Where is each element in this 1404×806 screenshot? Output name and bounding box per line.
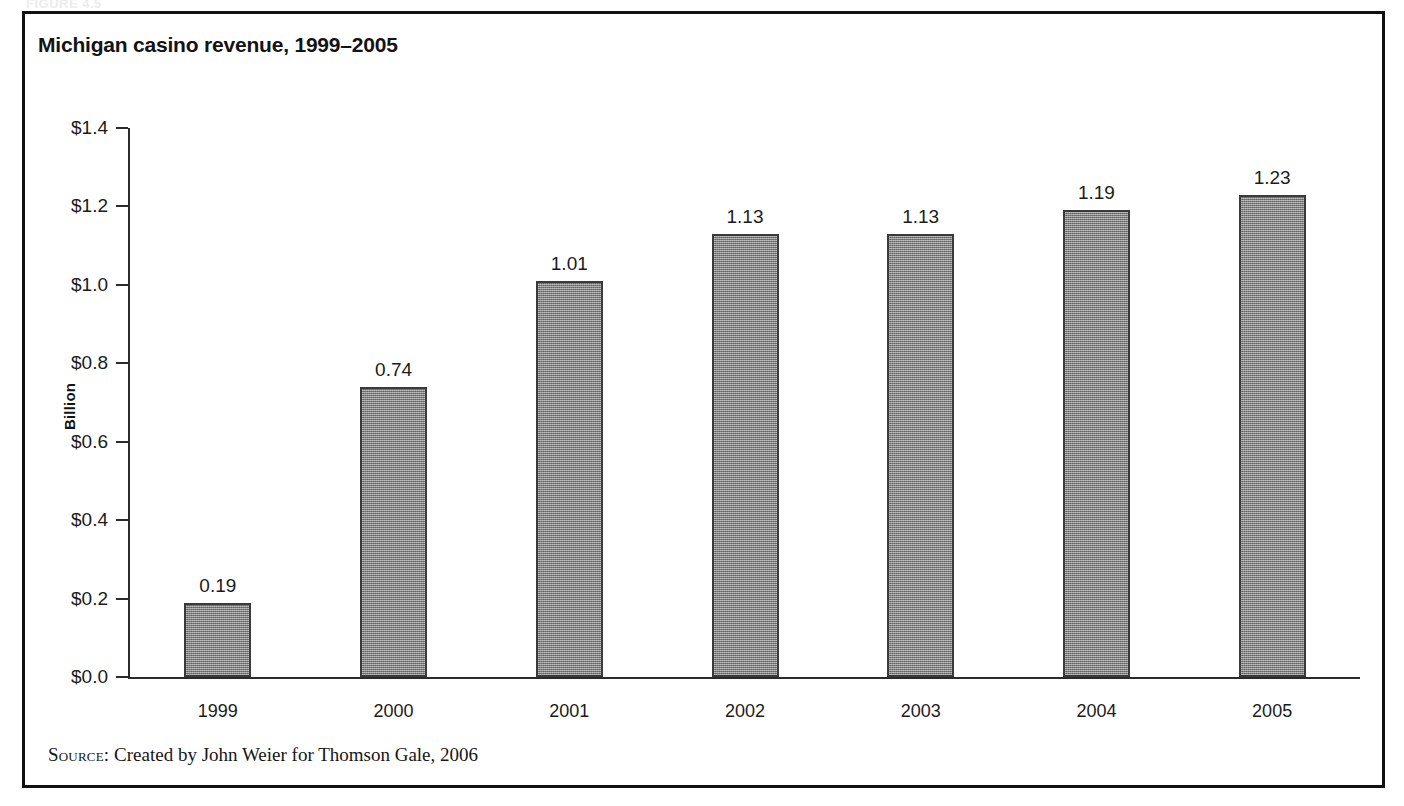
bar-value-label: 0.74 bbox=[330, 359, 457, 381]
bar[interactable] bbox=[887, 234, 954, 677]
x-axis-tick-label: 2002 bbox=[682, 701, 809, 722]
bar-group: 1.01 bbox=[536, 128, 603, 677]
bar-value-label: 0.19 bbox=[154, 575, 281, 597]
y-axis-tick bbox=[116, 205, 128, 207]
bar-group: 1.19 bbox=[1063, 128, 1130, 677]
x-axis-tick-label: 2004 bbox=[1033, 701, 1160, 722]
bar[interactable] bbox=[1063, 210, 1130, 677]
bar-value-label: 1.13 bbox=[682, 206, 809, 228]
x-axis-tick-label: 2000 bbox=[330, 701, 457, 722]
y-axis-tick bbox=[116, 519, 128, 521]
x-axis-tick-label: 2005 bbox=[1209, 701, 1336, 722]
y-axis-tick-label: $1.0 bbox=[38, 274, 108, 296]
plot-area: $0.0$0.2$0.4$0.6$0.8$1.0$1.2$1.4 0.190.7… bbox=[130, 128, 1360, 677]
y-axis-tick-label: $0.8 bbox=[38, 352, 108, 374]
bar-group: 1.13 bbox=[887, 128, 954, 677]
bar-group: 0.19 bbox=[184, 128, 251, 677]
x-axis-tick-label: 2003 bbox=[857, 701, 984, 722]
bar[interactable] bbox=[536, 281, 603, 677]
y-axis-tick bbox=[116, 127, 128, 129]
y-axis-tick bbox=[116, 284, 128, 286]
bar[interactable] bbox=[712, 234, 779, 677]
y-axis-tick-label: $0.4 bbox=[38, 509, 108, 531]
bar-value-label: 1.19 bbox=[1033, 182, 1160, 204]
y-axis-tick-label: $0.0 bbox=[38, 666, 108, 688]
bar-value-label: 1.01 bbox=[506, 253, 633, 275]
y-axis-tick-label: $1.4 bbox=[38, 117, 108, 139]
y-axis-tick-label: $1.2 bbox=[38, 195, 108, 217]
bar[interactable] bbox=[1239, 195, 1306, 677]
y-axis-line bbox=[128, 128, 130, 677]
bar[interactable] bbox=[360, 387, 427, 677]
y-axis-tick bbox=[116, 441, 128, 443]
y-axis-tick bbox=[116, 362, 128, 364]
bar[interactable] bbox=[184, 603, 251, 678]
bar-group: 1.23 bbox=[1239, 128, 1306, 677]
chart-title: Michigan casino revenue, 1999–2005 bbox=[38, 33, 398, 57]
bar-group: 1.13 bbox=[712, 128, 779, 677]
bar-group: 0.74 bbox=[360, 128, 427, 677]
figure-caption-ghost: FIGURE 4.5 bbox=[26, 0, 102, 11]
x-axis-tick-label: 2001 bbox=[506, 701, 633, 722]
y-axis-tick bbox=[116, 598, 128, 600]
source-text: Created by John Weier for Thomson Gale, … bbox=[114, 744, 478, 765]
y-axis-tick-label: $0.2 bbox=[38, 588, 108, 610]
x-axis-line bbox=[128, 677, 1360, 679]
bar-value-label: 1.23 bbox=[1209, 167, 1336, 189]
bar-value-label: 1.13 bbox=[857, 206, 984, 228]
source-label: Source: bbox=[48, 744, 109, 765]
y-axis-tick-label: $0.6 bbox=[38, 431, 108, 453]
y-axis-tick bbox=[116, 676, 128, 678]
source-line: Source: Created by John Weier for Thomso… bbox=[48, 744, 478, 766]
y-axis-title: Billion bbox=[61, 383, 78, 430]
x-axis-tick-label: 1999 bbox=[154, 701, 281, 722]
